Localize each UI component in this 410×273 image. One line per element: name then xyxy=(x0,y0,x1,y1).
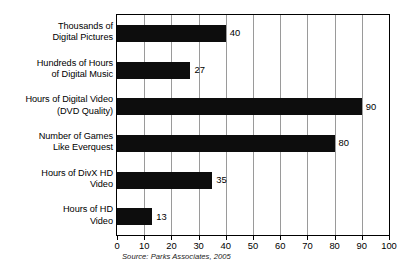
gridline xyxy=(280,15,281,235)
x-axis-tick-label: 100 xyxy=(381,240,397,252)
x-axis-tick-label: 80 xyxy=(329,240,339,252)
source-note: Source: Parks Associates, 2005 xyxy=(122,252,231,262)
bar xyxy=(117,172,212,189)
x-axis-tick-label: 50 xyxy=(248,240,258,252)
gridline xyxy=(199,15,200,235)
bar-value-label: 40 xyxy=(230,28,240,38)
gridline xyxy=(171,15,172,235)
x-axis-tick-label: 30 xyxy=(193,240,203,252)
category-label-line: Number of Games xyxy=(0,131,113,142)
bar xyxy=(117,135,335,152)
x-axis-tick-label: 60 xyxy=(275,240,285,252)
category-label-line: Digital Pictures xyxy=(0,32,113,43)
category-label-line: Video xyxy=(0,216,113,227)
gridline xyxy=(307,15,308,235)
category-label: Hours of DivX HDVideo xyxy=(0,168,113,190)
bar xyxy=(117,62,190,79)
category-label-line: Thousands of xyxy=(0,21,113,32)
category-label-line: Like Everquest xyxy=(0,142,113,153)
gridline xyxy=(335,15,336,235)
category-label: Thousands ofDigital Pictures xyxy=(0,21,113,43)
bar-chart-figure: Thousands ofDigital PicturesHundreds of … xyxy=(0,0,410,273)
bar-value-label: 90 xyxy=(366,102,376,112)
bar-value-label: 80 xyxy=(339,138,349,148)
bar xyxy=(117,98,362,115)
category-label-line: (DVD Quality) xyxy=(0,106,113,117)
x-axis-tick-label: 0 xyxy=(114,240,119,252)
x-axis-tick-label: 70 xyxy=(302,240,312,252)
gridline xyxy=(253,15,254,235)
category-label: Hundreds of Hoursof Digital Music xyxy=(0,58,113,80)
plot-area: 402790803513 xyxy=(116,14,390,236)
gridline xyxy=(226,15,227,235)
x-axis-tick-label: 20 xyxy=(166,240,176,252)
category-label-line: of Digital Music xyxy=(0,69,113,80)
gridline xyxy=(362,15,363,235)
category-label-line: Hours of DivX HD xyxy=(0,168,113,179)
category-label-line: Video xyxy=(0,179,113,190)
x-axis-tick-label: 90 xyxy=(357,240,367,252)
category-label-line: Hours of HD xyxy=(0,204,113,215)
bar-value-label: 35 xyxy=(216,175,226,185)
bar-value-label: 27 xyxy=(194,65,204,75)
category-axis-labels: Thousands ofDigital PicturesHundreds of … xyxy=(0,14,113,236)
category-label: Number of GamesLike Everquest xyxy=(0,131,113,153)
category-label-line: Hours of Digital Video xyxy=(0,94,113,105)
bar-value-label: 13 xyxy=(156,212,166,222)
bar xyxy=(117,208,152,225)
gridline xyxy=(144,15,145,235)
x-axis-tick-label: 10 xyxy=(139,240,149,252)
category-label: Hours of HDVideo xyxy=(0,204,113,226)
category-label: Hours of Digital Video(DVD Quality) xyxy=(0,94,113,116)
category-label-line: Hundreds of Hours xyxy=(0,58,113,69)
x-axis-tick-label: 40 xyxy=(221,240,231,252)
bar xyxy=(117,25,226,42)
